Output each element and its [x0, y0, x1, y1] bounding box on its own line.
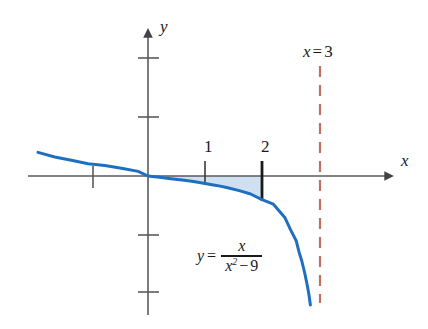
y-axis-label: y [160, 18, 168, 35]
asymptote-label-value: 3 [324, 42, 333, 61]
equation-equals-sign: = [207, 248, 216, 264]
x-tick-label-1: 1 [204, 138, 213, 155]
curve-equation-label: y = x x2−9 [197, 238, 262, 274]
x-tick-label-2: 2 [261, 138, 270, 155]
equation-denominator: x2−9 [221, 257, 262, 274]
equation-numerator: x [232, 238, 251, 255]
asymptote-label-variable: x [303, 42, 311, 61]
x-axis-label: x [401, 152, 409, 169]
denominator-operator: − [237, 257, 250, 274]
denominator-constant: 9 [250, 257, 258, 274]
graph-figure: y x 1 2 x=3 y = x x2−9 [0, 0, 428, 329]
asymptote-label: x=3 [303, 43, 333, 60]
equation-left-side: y [197, 248, 204, 264]
equation-fraction: x x2−9 [221, 238, 262, 274]
asymptote-label-equals: = [311, 42, 325, 61]
plot-canvas [0, 0, 428, 329]
